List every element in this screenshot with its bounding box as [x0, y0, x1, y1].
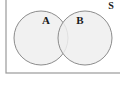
universal-set-label: S: [108, 0, 114, 11]
set-b-label: B: [76, 14, 84, 26]
set-a-label: A: [42, 14, 50, 26]
venn-diagram-canvas: A B S: [0, 0, 120, 85]
set-b-circle: [58, 11, 112, 65]
venn-diagram-figure: A B S: [0, 0, 120, 85]
